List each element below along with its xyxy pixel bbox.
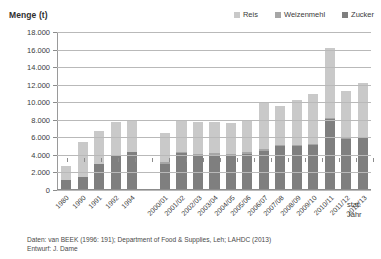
x-axis-title-line1: stat. [347, 200, 377, 210]
bar-stack[interactable] [242, 32, 252, 189]
x-tick-slot [279, 158, 296, 162]
x-tick-slot [228, 158, 245, 162]
bar-segment-reis [242, 120, 252, 152]
x-tick-mark [67, 158, 68, 162]
x-tick-slot [58, 158, 75, 162]
bar-segment-reis [127, 121, 137, 152]
bar-column-1991 [91, 32, 107, 189]
bar-stack[interactable] [226, 32, 236, 189]
bar-stack[interactable] [292, 32, 302, 189]
y-tick-mark [53, 67, 57, 68]
bar-stack[interactable] [193, 32, 203, 189]
gridline [57, 50, 371, 51]
x-tick-marks [58, 158, 381, 162]
chart-legend: ReisWeizenmehlZucker [234, 10, 374, 19]
x-tick-mark [322, 158, 323, 162]
bar-stack[interactable] [275, 32, 285, 189]
bar-column-2004-05 [223, 32, 239, 189]
x-tick-slot [75, 158, 92, 162]
gridline [57, 155, 371, 156]
bar-segment-reis [111, 122, 121, 155]
y-tick-mark [53, 120, 57, 121]
x-tick-slot [92, 158, 109, 162]
bar-stack[interactable] [61, 32, 71, 189]
x-tick-mark [101, 158, 102, 162]
chart-container: Menge (t) ReisWeizenmehlZucker 198019901… [0, 0, 381, 259]
y-axis-title: Menge (t) [9, 10, 48, 20]
gridline [57, 137, 371, 138]
y-tick-label: 10.000 [0, 98, 50, 107]
y-tick-label: 14.000 [0, 63, 50, 72]
bar-stack[interactable] [325, 32, 335, 189]
bar-segment-reis [226, 123, 236, 154]
x-label-slot: 1994 [124, 192, 141, 232]
bar-segment-reis [325, 48, 335, 118]
legend-swatch-icon [234, 12, 240, 18]
bar-column-2006-07 [256, 32, 272, 189]
bar-stack[interactable] [358, 32, 368, 189]
y-tick-mark [53, 190, 57, 191]
bar-segment-reis [259, 103, 269, 149]
x-tick-slot [177, 158, 194, 162]
x-tick-slot [245, 158, 262, 162]
bar-column-1994 [124, 32, 140, 189]
x-label-slot: 1991 [91, 192, 108, 232]
x-tick-slot [262, 158, 279, 162]
bar-stack[interactable] [111, 32, 121, 189]
bar-segment-zucker [160, 164, 170, 189]
bar-stack[interactable] [308, 32, 318, 189]
bar-column-2000-01 [157, 32, 173, 189]
x-tick-mark [254, 158, 255, 162]
y-tick-label: 16.000 [0, 45, 50, 54]
legend-swatch-icon [275, 12, 281, 18]
x-tick-slot [194, 158, 211, 162]
legend-label: Zucker [351, 10, 374, 19]
legend-item-weizenmehl: Weizenmehl [275, 10, 325, 19]
y-tick-mark [53, 85, 57, 86]
bar-segment-reis [358, 83, 368, 137]
bar-column-2003-04 [206, 32, 222, 189]
bar-stack[interactable] [94, 32, 104, 189]
x-label-slot: 1992 [108, 192, 125, 232]
plot-area [57, 32, 371, 190]
gridline [57, 85, 371, 86]
y-tick-label: 6.000 [0, 133, 50, 142]
bar-stack[interactable] [209, 32, 219, 189]
x-tick-slot [313, 158, 330, 162]
bar-stack[interactable] [127, 32, 137, 189]
y-tick-label: 0 [0, 186, 50, 195]
bar-column-1980 [58, 32, 74, 189]
gridline [57, 120, 371, 121]
x-tick-mark [203, 158, 204, 162]
x-tick-mark [356, 158, 357, 162]
bar-group [58, 32, 371, 189]
x-tick-slot [364, 158, 381, 162]
gridline [57, 102, 371, 103]
y-tick-label: 18.000 [0, 28, 50, 37]
bar-column-2010-11 [322, 32, 338, 189]
bar-column-2012-13 [354, 32, 370, 189]
bar-stack[interactable] [78, 32, 88, 189]
x-tick-mark [271, 158, 272, 162]
y-tick-mark [53, 32, 57, 33]
x-axis-title: stat. Jahr [347, 200, 377, 220]
bar-column-gap [140, 32, 156, 189]
x-tick-slot [211, 158, 228, 162]
bar-segment-reis [275, 106, 285, 144]
bar-column-1992 [107, 32, 123, 189]
bar-column-2009-10 [305, 32, 321, 189]
bar-stack[interactable] [259, 32, 269, 189]
bar-stack[interactable] [341, 32, 351, 189]
x-tick-mark [305, 158, 306, 162]
bar-column-2007-08 [272, 32, 288, 189]
bar-stack[interactable] [160, 32, 170, 189]
gridline [57, 172, 371, 173]
x-tick-slot [109, 158, 126, 162]
bar-segment-reis [176, 121, 186, 152]
x-tick-mark [152, 158, 153, 162]
y-tick-mark [53, 155, 57, 156]
bar-stack[interactable] [176, 32, 186, 189]
x-axis-title-line2: Jahr [347, 210, 377, 220]
footer-author: Entwurf: J. Dame [27, 244, 271, 253]
y-tick-label: 2.000 [0, 168, 50, 177]
